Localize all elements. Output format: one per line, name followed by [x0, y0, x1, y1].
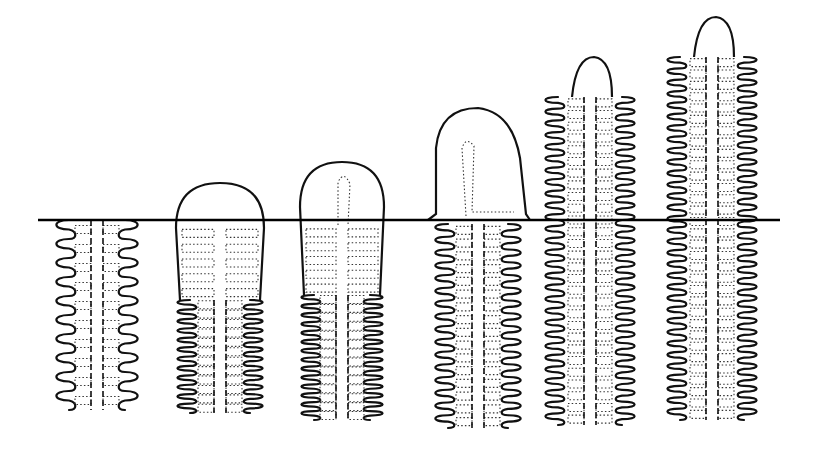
segment-mark — [568, 99, 584, 107]
segment-mark — [718, 172, 734, 180]
segment-mark — [320, 349, 336, 357]
stage-4-right-wall — [502, 224, 521, 428]
segment-mark — [568, 310, 584, 318]
segment-mark — [596, 169, 612, 177]
segment-mark — [568, 403, 584, 411]
segment-mark — [226, 301, 242, 309]
segment-mark — [75, 321, 91, 329]
segment-mark — [718, 274, 734, 282]
segment-mark — [484, 316, 500, 324]
segment-mark — [320, 313, 336, 321]
segment-mark — [226, 310, 242, 318]
segment-mark — [348, 331, 364, 339]
segment-mark — [103, 245, 119, 253]
segment-mark — [348, 340, 364, 348]
segment-mark — [456, 226, 472, 234]
segment-mark — [348, 322, 364, 330]
segment-mark — [718, 331, 734, 339]
segment-mark — [596, 380, 612, 388]
segment-mark — [456, 354, 472, 362]
segment-mark — [75, 283, 91, 291]
segment-mark — [348, 376, 364, 384]
segment-mark — [718, 127, 734, 135]
segment-mark — [103, 378, 119, 386]
stage-4-finger-tip — [428, 108, 530, 220]
segment-mark — [320, 340, 336, 348]
segment-mark — [690, 320, 706, 328]
segment-mark — [75, 245, 91, 253]
segment-mark — [690, 149, 706, 157]
segment-mark — [456, 379, 472, 387]
segment-mark — [103, 321, 119, 329]
segment-mark — [718, 183, 734, 191]
segment-mark — [103, 283, 119, 291]
segment-mark — [348, 385, 364, 393]
stage-2-right-wall — [244, 300, 263, 413]
segment-mark — [568, 122, 584, 130]
segment-mark — [690, 342, 706, 350]
segment-mark — [596, 204, 612, 212]
segment-mark — [690, 263, 706, 271]
segment-mark — [718, 410, 734, 418]
segment-mark — [484, 290, 500, 298]
segment-mark — [690, 127, 706, 135]
segment-mark — [718, 138, 734, 146]
segment-mark — [484, 328, 500, 336]
segment-mark — [103, 302, 119, 310]
segment-mark — [596, 415, 612, 423]
segment-mark — [484, 303, 500, 311]
segment-mark — [348, 403, 364, 411]
stage-1-left-wall — [56, 220, 75, 410]
segment-mark — [103, 264, 119, 272]
segment-mark — [568, 111, 584, 119]
segment-mark — [718, 320, 734, 328]
segment-mark — [456, 392, 472, 400]
segment-mark — [320, 358, 336, 366]
segment-mark — [596, 392, 612, 400]
segment-mark — [596, 146, 612, 154]
segment-mark — [456, 265, 472, 273]
segment-mark — [718, 388, 734, 396]
segment-mark — [596, 263, 612, 271]
segment-mark — [596, 275, 612, 283]
segment-mark — [198, 301, 214, 309]
segment-mark — [690, 399, 706, 407]
segment-mark — [320, 385, 336, 393]
segment-mark — [718, 365, 734, 373]
segment-mark — [348, 358, 364, 366]
segment-mark — [456, 303, 472, 311]
segment-mark — [690, 229, 706, 237]
segment-mark — [718, 229, 734, 237]
segment-mark — [103, 397, 119, 405]
stage-3-left-wall — [301, 295, 320, 420]
segment-mark — [484, 405, 500, 413]
segment-mark — [718, 240, 734, 248]
segment-mark — [596, 134, 612, 142]
segment-mark — [226, 367, 242, 375]
segment-mark — [320, 403, 336, 411]
segment-mark — [568, 251, 584, 259]
segment-mark — [596, 310, 612, 318]
segment-mark — [226, 348, 242, 356]
segment-mark — [568, 193, 584, 201]
segment-mark — [484, 341, 500, 349]
segment-mark — [568, 286, 584, 294]
segment-mark — [690, 365, 706, 373]
segment-mark — [718, 376, 734, 384]
segment-mark — [690, 161, 706, 169]
segment-mark — [568, 380, 584, 388]
segment-mark — [198, 395, 214, 403]
segment-mark — [568, 333, 584, 341]
segment-mark — [320, 394, 336, 402]
segment-mark — [226, 376, 242, 384]
segment-mark — [596, 99, 612, 107]
segment-mark — [596, 111, 612, 119]
segment-mark — [320, 295, 336, 303]
segment-mark — [103, 226, 119, 234]
segment-mark — [718, 252, 734, 260]
segment-mark — [226, 357, 242, 365]
segment-mark — [596, 181, 612, 189]
segment-mark — [718, 149, 734, 157]
segment-mark — [484, 354, 500, 362]
segment-mark — [596, 333, 612, 341]
